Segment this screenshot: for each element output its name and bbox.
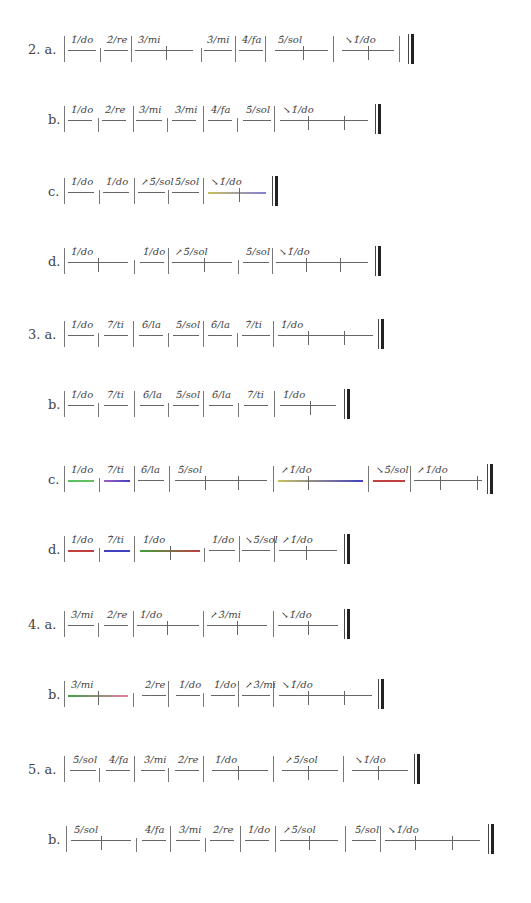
beat-group: 1̂/do	[68, 315, 94, 355]
beat-line	[104, 480, 130, 482]
scale-degree-label: 5̂/sol	[150, 176, 174, 187]
beat-group: ↘1̂/do	[278, 605, 338, 645]
scale-degree-label: 7̂/ti	[107, 389, 124, 400]
beat-line	[175, 770, 199, 771]
solfege-note: 6̂/la	[212, 389, 231, 400]
bar-line	[273, 611, 274, 637]
arrow-up-icon: ↗	[285, 755, 293, 765]
solfege-note: 3̂/mi	[71, 609, 93, 620]
beat-tick	[238, 766, 239, 780]
beat-group: 3̂/mi	[135, 30, 193, 70]
beat-group: 4̂/fa	[239, 30, 263, 70]
solfege-note: 1̂/do	[71, 176, 93, 187]
beat-tick	[239, 188, 240, 202]
beat-line	[278, 335, 373, 336]
scale-degree-label: 1̂/do	[71, 34, 93, 45]
scale-degree-label: 6̂/la	[141, 464, 160, 475]
arrow-down-icon: ↘	[282, 680, 290, 690]
beat-group: 3̂/mi	[68, 675, 128, 715]
beat-line	[280, 405, 336, 406]
beat-group: 5̂/sol	[243, 100, 271, 140]
beat-line	[279, 550, 337, 551]
solfege-note: 4̂/fa	[109, 754, 128, 765]
bar-line	[131, 36, 132, 62]
solfege-note: ↗1̂/do	[282, 534, 313, 545]
beat-group: 1̂/do	[68, 30, 96, 70]
beat-tick	[308, 621, 309, 635]
beat-line	[173, 335, 199, 336]
beat-line	[242, 335, 270, 336]
beat-group: 1̂/do	[245, 820, 269, 860]
beat-tick	[205, 476, 206, 490]
exercise-label: b.	[48, 397, 60, 412]
final-double-barline	[272, 176, 279, 206]
beat-group: 4̂/fa	[142, 820, 166, 860]
bar-line	[274, 391, 275, 417]
beat-group: ↗1̂/do	[278, 460, 363, 500]
bar-line	[167, 118, 168, 132]
beat-group: 1̂/do	[209, 530, 235, 570]
beat-group: 7̂/ti	[104, 460, 130, 500]
beat-line	[139, 335, 163, 336]
scale-degree-label: 3̂/mi	[144, 754, 166, 765]
beat-line	[211, 695, 235, 696]
beat-line	[142, 695, 166, 696]
scale-degree-label: 1̂/do	[290, 464, 312, 475]
scale-degree-label: 6̂/la	[143, 389, 162, 400]
beat-tick	[440, 476, 441, 490]
solfege-note: 3̂/mi	[144, 754, 166, 765]
solfege-note: ↘1̂/do	[388, 824, 419, 835]
beat-tick	[306, 258, 307, 272]
beat-line	[210, 840, 234, 841]
beat-group: 3̂/mi	[136, 100, 162, 140]
bar-line	[237, 333, 238, 347]
exercise-label: 5. a.	[28, 762, 56, 777]
bar-line	[133, 693, 134, 707]
beat-line	[138, 480, 164, 481]
scale-degree-label: 1̂/do	[426, 464, 448, 475]
beat-line	[280, 120, 368, 121]
beat-line	[104, 405, 128, 406]
scale-degree-label: 5̂/sol	[176, 319, 200, 330]
exercise-row: c.1̂/do1̂/do↗5̂/sol5̂/sol↘1̂/do	[0, 172, 531, 212]
beat-tick	[308, 691, 309, 705]
bar-line	[368, 466, 369, 492]
beat-group: 1̂/do	[68, 530, 94, 570]
scale-degree-label: 1̂/do	[248, 824, 270, 835]
beat-line	[373, 480, 405, 482]
bar-line	[273, 321, 274, 347]
bar-line	[99, 190, 100, 204]
bar-line	[168, 190, 169, 204]
beat-group: 1̂/do	[211, 675, 235, 715]
bar-line	[98, 403, 99, 417]
beat-line	[385, 840, 480, 841]
beat-line	[244, 405, 268, 406]
beat-line	[102, 120, 126, 121]
final-double-barline	[488, 824, 495, 854]
beat-group: ↘1̂/do	[352, 750, 408, 790]
bar-line	[64, 321, 65, 347]
solfege-note: 2̂/re	[105, 104, 125, 115]
bar-line	[136, 838, 137, 852]
scale-degree-label: 7̂/ti	[245, 319, 262, 330]
beat-line	[212, 770, 268, 771]
beat-tick	[309, 836, 310, 850]
solfege-note: 2̂/re	[213, 824, 233, 835]
beat-tick	[344, 331, 345, 345]
solfege-note: ↘5̂/sol	[376, 464, 409, 475]
bar-line	[168, 768, 169, 782]
solfege-note: 3̂/mi	[207, 34, 229, 45]
bar-line	[100, 48, 101, 62]
scale-degree-label: 6̂/la	[142, 319, 161, 330]
beat-group: 1̂/do	[68, 460, 94, 500]
bar-line	[64, 466, 65, 492]
solfege-note: 1̂/do	[71, 464, 93, 475]
beat-line	[282, 770, 338, 771]
beat-tick	[344, 116, 345, 130]
beat-group: 3̂/mi	[176, 820, 200, 860]
beat-tick	[306, 546, 307, 560]
solfege-note: 1̂/do	[179, 679, 201, 690]
scale-degree-label: 5̂/sol	[292, 824, 316, 835]
solfege-note: 5̂/sol	[355, 824, 379, 835]
beat-line	[104, 50, 128, 51]
